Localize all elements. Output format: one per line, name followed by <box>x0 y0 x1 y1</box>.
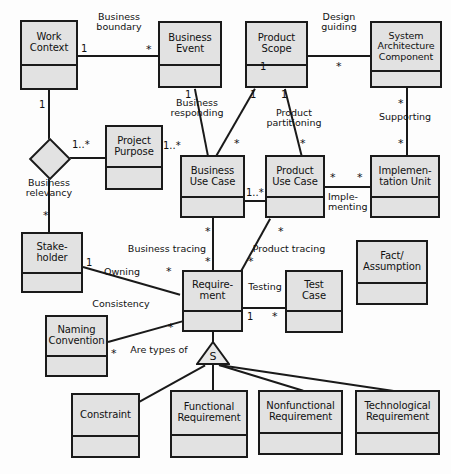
mult-implunit-top-star: * <box>398 138 404 149</box>
class-attrs-stakeholder <box>23 274 81 291</box>
label-implementing: Imple- menting <box>328 192 370 213</box>
mult-productscope-designguiding-1: 1 <box>260 62 266 72</box>
class-project-purpose[interactable]: Project Purpose <box>105 125 163 190</box>
class-name-fact-assumption: Fact/ Assumption <box>358 242 426 284</box>
mult-productusecase-bottom-star: * <box>278 226 284 237</box>
class-implementation-unit[interactable]: Implemen- tation Unit <box>370 155 440 218</box>
class-fact-assumption[interactable]: Fact/ Assumption <box>356 240 428 305</box>
class-attrs-system-architecture-component <box>372 72 440 86</box>
mult-productscope-right-1: 1 <box>281 90 287 100</box>
label-business-relevancy: Business relevancy <box>16 178 82 199</box>
mult-businessevent-star: * <box>146 44 152 55</box>
label-business-boundary: Business boundary <box>88 12 150 33</box>
class-constraint[interactable]: Constraint <box>71 393 140 458</box>
class-attrs-nonfunctional-requirement <box>260 434 341 453</box>
class-name-stakeholder: Stake- holder <box>23 234 81 274</box>
class-attrs-requirement <box>184 312 241 330</box>
class-name-test-case: Test Case <box>287 272 341 312</box>
label-owning: Owning <box>98 267 146 277</box>
mult-productscope-left-1: 1 <box>250 90 256 100</box>
generalization-marker-s: S <box>210 350 217 363</box>
mult-requirement-top-star: * <box>205 256 211 267</box>
class-name-requirement: Require- ment <box>184 272 241 312</box>
edge-gen-to-functional <box>212 364 214 392</box>
mult-businessusecase-top-1star: 1..* <box>163 141 181 151</box>
edge-implementing <box>325 186 370 188</box>
class-attrs-constraint <box>73 437 138 456</box>
edge-testing <box>243 307 285 309</box>
mult-businessusecase-right-1star: 1..* <box>246 188 264 198</box>
class-functional-requirement[interactable]: Functional Requirement <box>170 390 248 458</box>
edge-gen-to-technological <box>219 364 397 393</box>
class-naming-convention[interactable]: Naming Convention <box>45 315 108 377</box>
edge-design-guiding <box>308 55 370 57</box>
mult-requirement-lowleft-star: * <box>168 322 174 333</box>
uml-class-diagram: S Work Context Business Event Product Sc… <box>0 0 451 474</box>
class-business-use-case[interactable]: Business Use Case <box>180 155 245 218</box>
mult-projectpurpose-1star: 1..* <box>72 140 90 150</box>
label-product-partitioning: Product partitioning <box>259 108 329 129</box>
class-name-work-context: Work Context <box>22 22 76 66</box>
class-work-context[interactable]: Work Context <box>20 20 78 90</box>
mult-sysarch-bottom-star: * <box>398 98 404 109</box>
class-name-constraint: Constraint <box>73 395 138 437</box>
label-design-guiding: Design guiding <box>312 12 366 33</box>
class-name-functional-requirement: Functional Requirement <box>172 392 246 436</box>
class-attrs-implementation-unit <box>372 198 438 216</box>
class-nonfunctional-requirement[interactable]: Nonfunctional Requirement <box>258 390 343 455</box>
class-requirement[interactable]: Require- ment <box>182 270 243 332</box>
class-attrs-technological-requirement <box>357 434 438 453</box>
label-business-tracing: Business tracing <box>112 244 222 254</box>
class-name-product-use-case: Product Use Case <box>267 157 323 198</box>
mult-requirement-topright-star: * <box>248 256 254 267</box>
mult-stakeholder-star: * <box>43 210 49 221</box>
aggregation-diamond <box>29 138 71 180</box>
class-attrs-project-purpose <box>107 168 161 188</box>
class-name-nonfunctional-requirement: Nonfunctional Requirement <box>260 392 341 434</box>
mult-stakeholder-1: 1 <box>86 258 92 268</box>
class-attrs-business-use-case <box>182 198 243 216</box>
class-attrs-functional-requirement <box>172 436 246 456</box>
mult-requirement-left-star: * <box>166 266 172 277</box>
class-attrs-naming-convention <box>47 357 106 375</box>
class-technological-requirement[interactable]: Technological Requirement <box>355 390 440 455</box>
label-consistency: Consistency <box>83 299 159 309</box>
class-name-system-architecture-component: System Architecture Component <box>372 23 440 72</box>
class-system-architecture-component[interactable]: System Architecture Component <box>370 21 442 88</box>
mult-sysarch-star: * <box>336 61 342 72</box>
class-name-project-purpose: Project Purpose <box>107 127 161 168</box>
label-business-responding: Business responding <box>160 98 234 119</box>
class-stakeholder[interactable]: Stake- holder <box>21 232 83 293</box>
class-attrs-fact-assumption <box>358 284 426 303</box>
class-attrs-business-event <box>160 66 220 86</box>
mult-workcontext-businessevent-1: 1 <box>81 44 87 54</box>
class-product-scope[interactable]: Product Scope <box>245 21 308 88</box>
mult-businessusecase-bottom-star: * <box>205 226 211 237</box>
class-attrs-product-use-case <box>267 198 323 216</box>
mult-namingconvention-star: * <box>111 348 117 359</box>
mult-implunit-left-star: * <box>357 172 363 183</box>
edge-buc-to-puc <box>245 200 265 202</box>
class-attrs-product-scope <box>247 66 306 86</box>
class-name-product-scope: Product Scope <box>247 23 306 66</box>
mult-productusecase-star: * <box>300 138 306 149</box>
label-product-tracing: Product tracing <box>240 244 338 254</box>
class-name-business-use-case: Business Use Case <box>182 157 243 198</box>
mult-testcase-star: * <box>272 311 278 322</box>
mult-workcontext-bottom-1: 1 <box>39 100 45 110</box>
mult-productusecase-right-star: * <box>330 172 336 183</box>
mult-businessusecase-star: * <box>234 138 240 149</box>
mult-businessevent-bottom-1: 1 <box>185 90 191 100</box>
class-business-event[interactable]: Business Event <box>158 21 222 88</box>
generalization-triangle: S <box>196 341 230 365</box>
class-name-naming-convention: Naming Convention <box>47 317 106 357</box>
label-testing: Testing <box>243 282 287 292</box>
class-product-use-case[interactable]: Product Use Case <box>265 155 325 218</box>
mult-requirement-testing-1: 1 <box>247 312 253 322</box>
label-supporting: Supporting <box>369 112 441 122</box>
class-attrs-test-case <box>287 312 341 331</box>
class-name-technological-requirement: Technological Requirement <box>357 392 438 434</box>
class-test-case[interactable]: Test Case <box>285 270 343 333</box>
label-are-types-of: Are types of <box>125 345 193 355</box>
class-name-implementation-unit: Implemen- tation Unit <box>372 157 438 198</box>
